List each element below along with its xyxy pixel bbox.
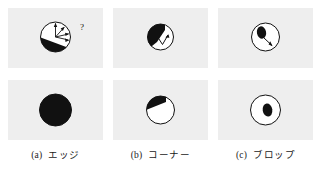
blob-gradient-patch: [218, 8, 313, 68]
caption-corner: (b)コーナー: [131, 148, 191, 162]
edge-gradient-patch: ?: [8, 8, 103, 68]
caption-edge: (a)エッジ: [31, 148, 80, 162]
caption-tag-b: (b): [131, 150, 143, 160]
blob-feature-patch: [218, 80, 313, 140]
figure-column-blob: (c)ブロップ: [218, 8, 313, 162]
figure-columns: ? (a)エッジ: [0, 0, 321, 173]
figure-root: ? (a)エッジ: [0, 0, 321, 173]
caption-blob: (c)ブロップ: [236, 148, 295, 162]
edge-question-annotation: ?: [80, 22, 84, 32]
corner-gradient-patch: [113, 8, 208, 68]
corner-feature-patch: [113, 80, 208, 140]
caption-text-a: エッジ: [48, 149, 80, 160]
caption-tag-c: (c): [236, 150, 247, 160]
edge-feature-patch: [8, 80, 103, 140]
caption-tag-a: (a): [31, 150, 42, 160]
figure-column-corner: (b)コーナー: [113, 8, 208, 162]
caption-text-c: ブロップ: [253, 149, 295, 160]
caption-text-b: コーナー: [148, 149, 190, 160]
figure-column-edge: ? (a)エッジ: [8, 8, 103, 162]
